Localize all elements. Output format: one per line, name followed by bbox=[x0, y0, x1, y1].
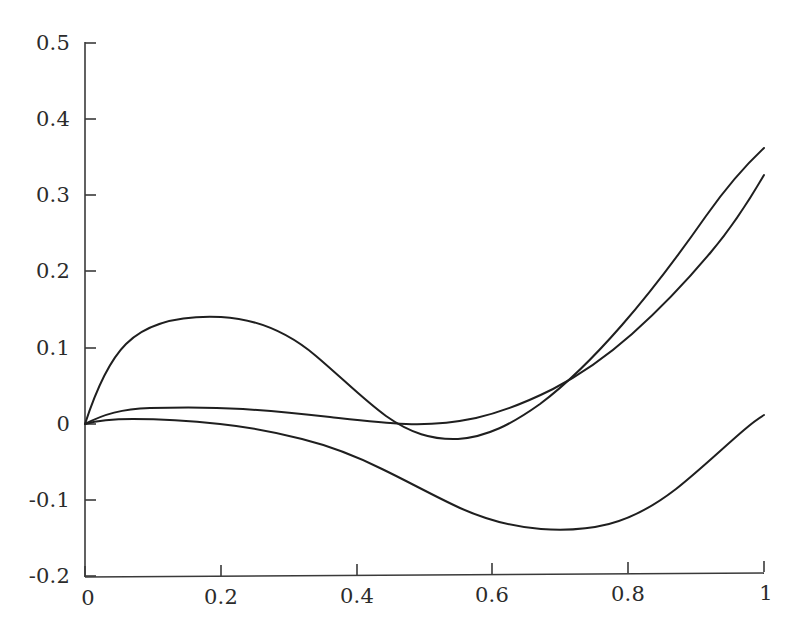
xtick-label-0.2: 0.2 bbox=[204, 585, 238, 609]
plot-canvas bbox=[0, 0, 788, 637]
xtick-label-0.8: 0.8 bbox=[611, 582, 645, 606]
ytick-label-0: 0 bbox=[8, 412, 70, 436]
chart-page: 0.5 0.4 0.3 0.2 0.1 0 -0.1 -0.2 0 0.2 0.… bbox=[0, 0, 788, 637]
ytick-label-0.3: 0.3 bbox=[8, 183, 70, 207]
axes-group bbox=[85, 42, 764, 577]
xtick-label-0: 0 bbox=[81, 586, 95, 610]
ytick-label-0.5: 0.5 bbox=[8, 31, 70, 55]
curve-3 bbox=[85, 415, 764, 530]
ytick-label-0.4: 0.4 bbox=[8, 107, 70, 131]
curve-2 bbox=[85, 175, 764, 424]
xtick-label-1: 1 bbox=[759, 581, 773, 605]
ytick-label-minus-0.1: -0.1 bbox=[0, 488, 70, 512]
ytick-label-0.2: 0.2 bbox=[8, 259, 70, 283]
curve-1 bbox=[85, 148, 764, 439]
ytick-label-minus-0.2: -0.2 bbox=[0, 564, 70, 588]
data-curves-group bbox=[85, 148, 764, 530]
xtick-label-0.6: 0.6 bbox=[475, 583, 509, 607]
xtick-label-0.4: 0.4 bbox=[340, 584, 374, 608]
ytick-label-0.1: 0.1 bbox=[8, 336, 70, 360]
y-tick-marks bbox=[85, 43, 96, 576]
x-axis-line bbox=[85, 573, 764, 577]
